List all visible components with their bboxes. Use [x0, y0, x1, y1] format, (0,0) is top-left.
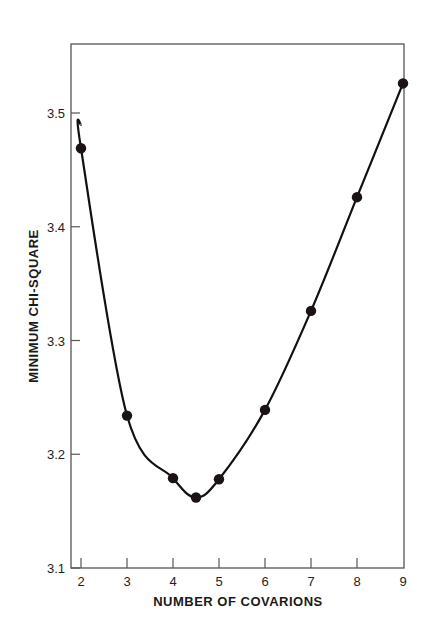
y-axis-ticks: 3.13.23.33.43.5 [47, 106, 80, 576]
data-point [260, 405, 270, 415]
x-tick-label: 6 [261, 574, 268, 589]
x-tick-label: 5 [215, 574, 222, 589]
x-axis-title: NUMBER OF COVARIONS [153, 594, 323, 609]
y-tick-label: 3.2 [47, 447, 65, 462]
data-point [306, 306, 316, 316]
x-tick-label: 7 [307, 574, 314, 589]
data-point [76, 143, 86, 153]
data-markers [76, 78, 408, 502]
chart-canvas: 3.13.23.33.43.5 23456789 NUMBER OF COVAR… [0, 0, 429, 631]
y-axis-title: MINIMUM CHI-SQUARE [26, 229, 41, 382]
data-point [191, 492, 201, 502]
data-point [214, 474, 224, 484]
x-tick-label: 3 [123, 574, 130, 589]
data-point [168, 473, 178, 483]
x-tick-label: 9 [399, 574, 406, 589]
x-tick-label: 4 [169, 574, 176, 589]
data-point [398, 78, 408, 88]
y-tick-label: 3.4 [47, 220, 65, 235]
y-tick-label: 3.3 [47, 334, 65, 349]
data-point [122, 410, 132, 420]
data-curve [78, 83, 403, 497]
x-tick-label: 8 [353, 574, 360, 589]
y-tick-label: 3.5 [47, 106, 65, 121]
y-tick-label: 3.1 [47, 561, 65, 576]
data-point [352, 192, 362, 202]
plot-frame [71, 44, 404, 568]
x-axis-ticks: 23456789 [77, 558, 406, 589]
x-tick-label: 2 [77, 574, 84, 589]
